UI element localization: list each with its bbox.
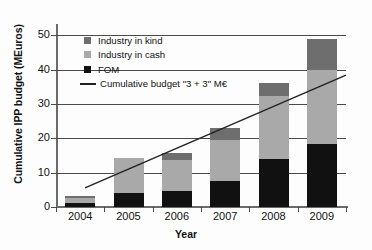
y-axis-ticks: 01020304050 bbox=[0, 0, 56, 250]
bar-segment-industry-in-kind[interactable] bbox=[162, 153, 192, 159]
legend-label: Cumulative budget "3 + 3" M€ bbox=[100, 78, 227, 89]
bar-segment-industry-in-kind[interactable] bbox=[210, 128, 240, 139]
legend-label: FOM bbox=[98, 64, 119, 75]
legend-swatch-icon bbox=[84, 51, 91, 58]
gridline bbox=[56, 104, 346, 105]
x-tick-label-2009: 2009 bbox=[298, 210, 346, 222]
chart-legend: Industry in kindIndustry in cashFOMCumul… bbox=[84, 33, 284, 91]
legend-item-2[interactable]: FOM bbox=[84, 62, 284, 77]
bar-segment-fom[interactable] bbox=[65, 203, 95, 207]
x-tick-label-2006: 2006 bbox=[153, 210, 201, 222]
legend-line-marker-icon bbox=[80, 83, 96, 85]
y-tick-label: 50 bbox=[20, 28, 50, 40]
bar-segment-fom[interactable] bbox=[114, 193, 144, 207]
legend-item-0[interactable]: Industry in kind bbox=[84, 33, 284, 48]
bar-2009[interactable] bbox=[307, 25, 337, 207]
x-axis-title: Year bbox=[0, 228, 372, 240]
legend-swatch-icon bbox=[84, 37, 91, 44]
y-tick-label: 20 bbox=[20, 131, 50, 143]
legend-item-3[interactable]: Cumulative budget "3 + 3" M€ bbox=[84, 77, 284, 92]
y-tick-label: 30 bbox=[20, 97, 50, 109]
x-tick-label-2004: 2004 bbox=[56, 210, 104, 222]
y-tick-label: 10 bbox=[20, 166, 50, 178]
bar-segment-industry-in-kind[interactable] bbox=[307, 39, 337, 70]
bar-segment-fom[interactable] bbox=[307, 144, 337, 207]
legend-swatch-icon bbox=[84, 66, 91, 73]
legend-label: Industry in cash bbox=[98, 49, 165, 60]
x-tick-label-2007: 2007 bbox=[201, 210, 249, 222]
chart-container: Cumulative IPP budget (MEuros) 010203040… bbox=[0, 0, 372, 250]
x-tick-mark bbox=[346, 207, 347, 212]
y-tick-label: 40 bbox=[20, 63, 50, 75]
bar-segment-industry-in-cash[interactable] bbox=[259, 96, 289, 159]
bar-segment-industry-in-cash[interactable] bbox=[114, 158, 144, 193]
y-tick-label: 0 bbox=[20, 200, 50, 212]
legend-item-1[interactable]: Industry in cash bbox=[84, 48, 284, 63]
x-tick-label-2005: 2005 bbox=[105, 210, 153, 222]
legend-label: Industry in kind bbox=[98, 35, 163, 46]
x-tick-label-2008: 2008 bbox=[250, 210, 298, 222]
bar-segment-industry-in-cash[interactable] bbox=[210, 140, 240, 181]
bar-segment-industry-in-cash[interactable] bbox=[162, 160, 192, 191]
bar-segment-industry-in-cash[interactable] bbox=[307, 70, 337, 145]
gridline bbox=[56, 173, 346, 174]
bar-segment-fom[interactable] bbox=[259, 159, 289, 207]
bar-segment-industry-in-cash[interactable] bbox=[65, 198, 95, 203]
bar-segment-fom[interactable] bbox=[162, 191, 192, 207]
bar-segment-industry-in-kind[interactable] bbox=[65, 196, 95, 198]
bar-segment-fom[interactable] bbox=[210, 181, 240, 207]
gridline bbox=[56, 138, 346, 139]
